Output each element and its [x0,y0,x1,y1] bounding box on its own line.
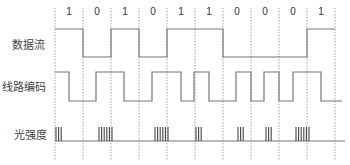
row-label-line-coding: 线路编码 [2,78,46,94]
bit-label: 0 [255,6,275,17]
bit-label: 1 [115,6,135,17]
row-label-light-intensity: 光强度 [14,126,47,142]
bit-label: 1 [171,6,191,17]
bit-label: 0 [227,6,247,17]
line-coding-diagram: 数据流 线路编码 光强度 1010110001 [0,0,350,165]
bit-label: 0 [87,6,107,17]
row-label-data-stream: 数据流 [12,36,45,52]
waveform-canvas [0,0,350,165]
bit-label: 1 [311,6,331,17]
line-code-waveform [55,72,342,101]
bit-label: 0 [283,6,303,17]
bit-label: 1 [199,6,219,17]
bit-label: 1 [59,6,79,17]
bit-label: 0 [143,6,163,17]
